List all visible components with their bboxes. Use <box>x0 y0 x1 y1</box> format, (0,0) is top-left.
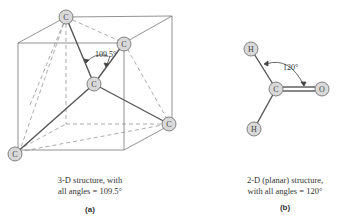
caption-b-line2: with all angles = 120° <box>235 186 335 197</box>
svg-text:H: H <box>248 45 254 54</box>
angle-label-a: 109.5° <box>95 50 116 59</box>
svg-text:C: C <box>166 120 171 129</box>
svg-text:C: C <box>91 80 96 89</box>
atom-c-upper-right: C <box>117 37 131 51</box>
caption-a-line1: 3-D structure, with <box>35 175 145 186</box>
atom-c-center-2d: C <box>269 82 283 96</box>
atoms-2d: H C O H <box>244 42 329 136</box>
atom-h-bottom: H <box>247 122 261 136</box>
svg-text:C: C <box>121 40 126 49</box>
caption-b: 2-D (planar) structure, with all angles … <box>235 175 335 197</box>
atom-c-right: C <box>162 117 176 131</box>
atom-h-top: H <box>244 42 258 56</box>
caption-a-line2: all angles = 109.5° <box>35 186 145 197</box>
svg-text:O: O <box>319 85 325 94</box>
atom-c-center: C <box>87 77 101 91</box>
panel-label-b: (b) <box>265 203 305 212</box>
atom-c-top: C <box>59 10 73 24</box>
panel-label-a: (a) <box>70 205 110 214</box>
svg-text:C: C <box>273 85 278 94</box>
atom-o: O <box>315 82 329 96</box>
svg-text:C: C <box>12 150 17 159</box>
caption-b-line1: 2-D (planar) structure, <box>235 175 335 186</box>
angle-label-b: 120° <box>283 63 298 72</box>
svg-text:H: H <box>251 125 257 134</box>
atom-c-bottom-left: C <box>8 147 22 161</box>
svg-text:C: C <box>63 13 68 22</box>
caption-a: 3-D structure, with all angles = 109.5° <box>35 175 145 197</box>
